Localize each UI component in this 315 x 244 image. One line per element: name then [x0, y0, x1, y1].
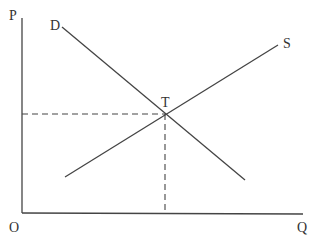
- demand-curve: [62, 27, 245, 180]
- supply-label: S: [283, 36, 291, 51]
- y-axis-label: P: [9, 8, 17, 23]
- supply-curve: [65, 45, 278, 177]
- x-axis: [22, 213, 303, 214]
- supply-demand-diagram: P Q O D S T: [0, 0, 315, 244]
- origin-label: O: [9, 220, 19, 235]
- demand-label: D: [50, 18, 60, 33]
- x-axis-label: Q: [297, 220, 307, 235]
- equilibrium-label: T: [161, 95, 170, 110]
